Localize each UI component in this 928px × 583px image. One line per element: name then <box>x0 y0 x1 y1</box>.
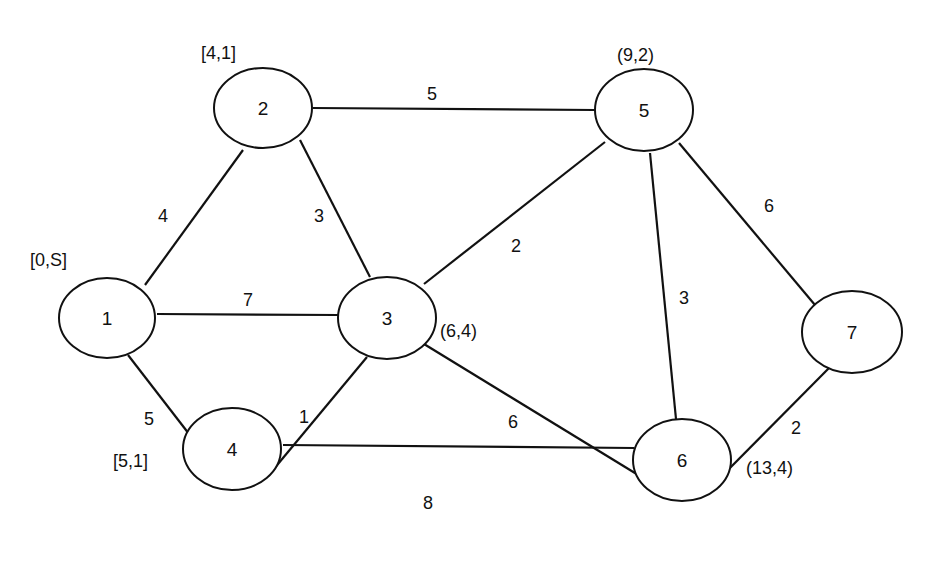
edge-2-5: 5 <box>313 84 595 110</box>
node-label: 4 <box>227 439 238 460</box>
edge-weight-label: 4 <box>158 206 168 226</box>
node-7: 7 <box>802 291 902 373</box>
edge-3-6: 6 <box>424 344 648 481</box>
edge-weight-label: 2 <box>791 418 801 438</box>
nodes-layer: 1234567 <box>59 68 902 501</box>
edge-weight-label: 7 <box>243 290 253 310</box>
edge-3-4: 1 <box>268 357 367 476</box>
edge-4-6: 8 <box>283 445 634 513</box>
node-4: 4 <box>183 408 281 490</box>
edge-weight-label: 1 <box>299 407 309 427</box>
edge-3-5: 2 <box>424 142 605 284</box>
edge-5-7: 6 <box>679 143 815 305</box>
edge-line <box>283 445 634 448</box>
edge-1-2: 4 <box>145 150 243 285</box>
edge-weight-label: 5 <box>427 84 437 104</box>
graph-diagram: 475351268362 1234567 [0,S][4,1](6,4)[5,1… <box>0 0 928 583</box>
edge-line <box>313 108 595 110</box>
node-2-distance-label: [4,1] <box>201 43 236 63</box>
node-label: 2 <box>258 98 269 119</box>
node-label: 5 <box>639 100 650 121</box>
edge-weight-label: 3 <box>314 206 324 226</box>
edge-weight-label: 3 <box>679 288 689 308</box>
node-6-distance-label: (13,4) <box>746 458 793 478</box>
node-5: 5 <box>595 69 693 151</box>
edge-line <box>679 143 815 305</box>
edge-line <box>424 344 648 481</box>
node-5-distance-label: (9,2) <box>617 45 654 65</box>
edge-5-6: 3 <box>650 153 689 419</box>
edge-1-3: 7 <box>157 290 339 315</box>
edge-line <box>650 153 676 419</box>
node-3-distance-label: (6,4) <box>440 321 477 341</box>
node-6: 6 <box>633 419 731 501</box>
node-label: 7 <box>847 322 858 343</box>
node-1-distance-label: [0,S] <box>30 250 67 270</box>
node-label: 3 <box>382 308 393 329</box>
node-label: 1 <box>102 308 113 329</box>
node-4-distance-label: [5,1] <box>113 451 148 471</box>
edge-weight-label: 6 <box>508 412 518 432</box>
edge-weight-label: 8 <box>423 493 433 513</box>
edge-weight-label: 5 <box>144 409 154 429</box>
edge-line <box>300 140 370 277</box>
node-1: 1 <box>59 278 155 358</box>
edge-weight-label: 6 <box>764 196 774 216</box>
node-label: 6 <box>677 450 688 471</box>
edge-line <box>424 142 605 284</box>
edge-line <box>157 314 339 315</box>
edge-weight-label: 2 <box>511 236 521 256</box>
node-2: 2 <box>214 68 312 148</box>
edge-2-3: 3 <box>300 140 370 277</box>
node-3: 3 <box>338 277 436 359</box>
edge-line <box>268 357 367 476</box>
